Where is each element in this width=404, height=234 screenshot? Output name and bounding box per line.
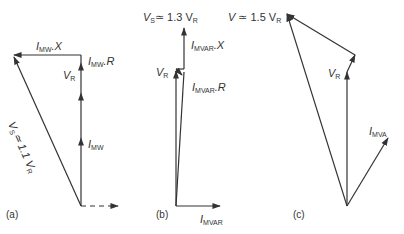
- imvar-r-vector: [176, 69, 182, 75]
- caption-b: (b): [156, 209, 168, 220]
- phasor-diagram-canvas: [0, 0, 404, 234]
- label-vs-b: VS≃ 1.3 VR: [143, 12, 198, 24]
- panel-b-phasors: [176, 28, 220, 206]
- label-imw-x: IMW.X: [36, 41, 62, 53]
- label-vr-a: VR: [63, 70, 75, 82]
- label-imw-r: IMW.R: [88, 56, 115, 68]
- label-imva: IMVA: [369, 126, 387, 138]
- panel-c-phasors: [287, 14, 388, 206]
- label-vr-b: VR: [156, 67, 168, 79]
- label-vr-c: VR: [328, 68, 340, 80]
- label-v-c: V ≃ 1.5 VR: [228, 12, 281, 24]
- imva-vector: [347, 138, 388, 206]
- label-imvar-x: IMVAR.X: [191, 40, 224, 52]
- vs-vector-b: [176, 72, 184, 206]
- caption-a: (a): [6, 209, 18, 220]
- drop-vector-c: [287, 14, 355, 55]
- label-imvar-r: IMVAR.R: [192, 82, 226, 94]
- label-imvar: IMVAR: [200, 214, 223, 226]
- v-vector-c: [287, 14, 347, 206]
- caption-c: (c): [293, 209, 305, 220]
- label-imw: IMW: [88, 139, 104, 151]
